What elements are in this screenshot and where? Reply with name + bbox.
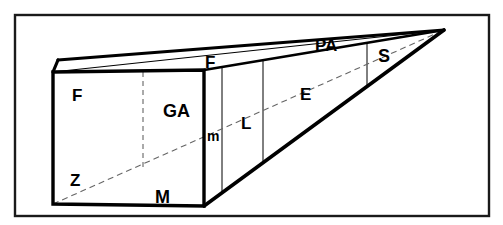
- perspective-box-diagram: FFGAZMmLEPAS: [0, 0, 503, 225]
- edge-bottom-receding: [204, 30, 444, 206]
- label-E: E: [300, 85, 311, 104]
- label-GA: GA: [163, 101, 190, 121]
- label-Z: Z: [70, 171, 80, 190]
- label-M: M: [155, 187, 170, 207]
- label-group: FFGAZMmLEPAS: [70, 36, 390, 207]
- label-m: m: [207, 128, 219, 144]
- label-L: L: [241, 114, 251, 133]
- label-F-top: F: [205, 53, 215, 72]
- label-PA: PA: [315, 36, 337, 55]
- label-F-front: F: [72, 86, 82, 105]
- label-S: S: [378, 46, 390, 66]
- diagram-root: FFGAZMmLEPAS: [0, 0, 503, 225]
- edge-top-left-connector: [53, 60, 58, 72]
